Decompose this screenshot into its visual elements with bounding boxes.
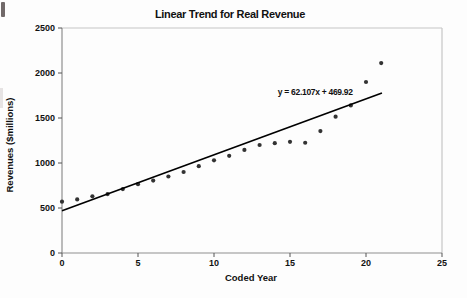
x-tick-label: 15	[285, 258, 295, 268]
trendline-equation: y = 62.107x + 469.92	[278, 87, 353, 97]
data-point	[227, 154, 231, 158]
data-point	[318, 129, 322, 133]
y-axis-ticks: 05001000150020002500	[35, 23, 62, 258]
y-tick-label: 500	[40, 203, 55, 213]
data-point	[334, 115, 338, 119]
plot-area: 05001000150020002500 0510152025 y = 62.1…	[35, 23, 447, 268]
data-point	[90, 194, 94, 198]
data-point	[212, 158, 216, 162]
y-tick-label: 0	[50, 248, 55, 258]
data-point	[303, 141, 307, 145]
data-point	[288, 140, 292, 144]
data-point	[379, 61, 383, 65]
data-points	[60, 61, 383, 204]
y-tick-label: 1000	[35, 158, 55, 168]
scan-artifact	[1, 2, 5, 17]
data-point	[166, 174, 170, 178]
data-point	[151, 178, 155, 182]
data-point	[75, 197, 79, 201]
data-point	[60, 200, 64, 204]
data-point	[182, 170, 186, 174]
x-tick-label: 25	[437, 258, 447, 268]
data-point	[242, 148, 246, 152]
x-tick-label: 10	[209, 258, 219, 268]
x-axis-label: Coded Year	[225, 272, 277, 283]
data-point	[364, 80, 368, 84]
y-axis-label: Revenues ($millions)	[4, 97, 15, 192]
y-tick-label: 2500	[35, 23, 55, 33]
chart-title: Linear Trend for Real Revenue	[155, 8, 305, 20]
y-tick-label: 2000	[35, 68, 55, 78]
x-tick-label: 20	[361, 258, 371, 268]
data-point	[197, 164, 201, 168]
data-point	[258, 143, 262, 147]
trend-line	[62, 93, 382, 211]
data-point	[273, 141, 277, 145]
x-tick-label: 0	[59, 258, 64, 268]
x-axis-ticks: 0510152025	[59, 253, 447, 268]
x-tick-label: 5	[135, 258, 140, 268]
chart-page: Linear Trend for Real Revenue 0500100015…	[0, 0, 467, 298]
revenue-trend-chart: Linear Trend for Real Revenue 0500100015…	[0, 0, 467, 298]
y-tick-label: 1500	[35, 113, 55, 123]
scan-smudge	[0, 88, 3, 108]
